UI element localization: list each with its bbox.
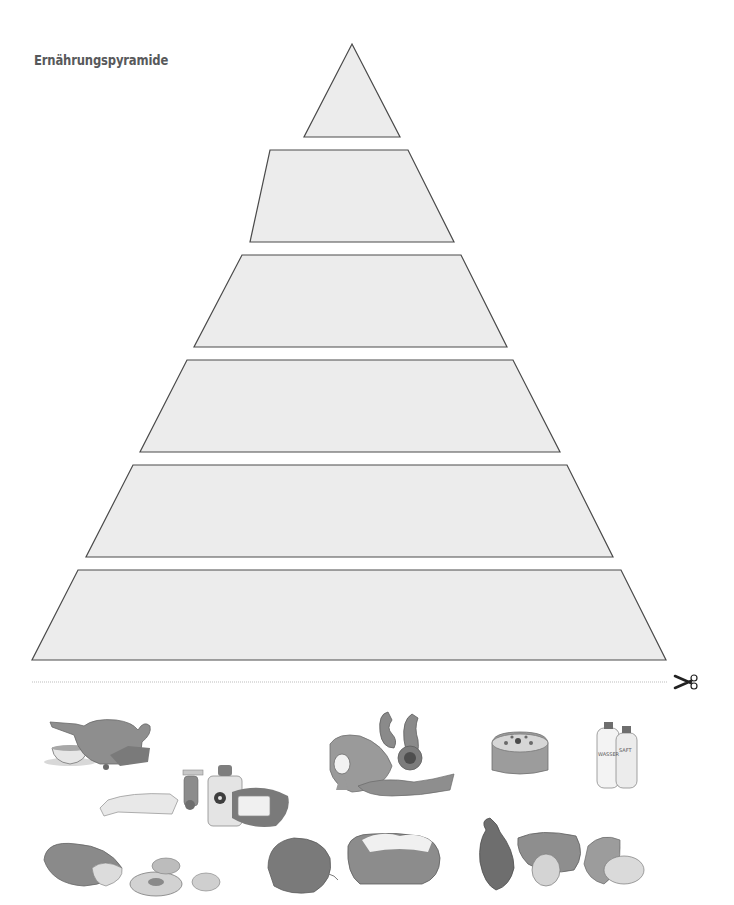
- cutout-fruits[interactable]: [480, 818, 644, 890]
- scissors-icon: [673, 672, 699, 692]
- pyramid-tier-2[interactable]: [250, 150, 454, 242]
- cutout-meat-sausage-fish[interactable]: [330, 712, 454, 796]
- pyramid-tier-1[interactable]: [304, 44, 400, 137]
- cutout-vegetables[interactable]: [268, 833, 440, 893]
- bottle-label-juice: SAFT: [619, 747, 632, 753]
- pyramid-tier-3[interactable]: [194, 255, 507, 347]
- food-pyramid: WASSER SAFT: [0, 0, 734, 905]
- cutout-cake[interactable]: [492, 732, 548, 774]
- cutout-fats-oils-butter[interactable]: [100, 765, 289, 827]
- cutout-tea-and-teapot[interactable]: [44, 720, 150, 770]
- pyramid-tier-4[interactable]: [140, 360, 560, 452]
- pyramid-tier-6[interactable]: [32, 570, 666, 660]
- cutout-bread-pretzels[interactable]: [44, 843, 220, 896]
- pyramid-tier-5[interactable]: [86, 465, 613, 557]
- cutout-water-bottles[interactable]: WASSER SAFT: [597, 722, 637, 788]
- bottle-label-water: WASSER: [598, 751, 620, 757]
